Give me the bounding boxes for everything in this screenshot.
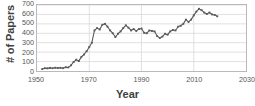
series-line [42,9,217,69]
series-marker [208,12,210,14]
series-marker [54,67,56,69]
series-marker [154,30,156,32]
series-marker [177,26,179,28]
series-marker [138,28,140,30]
plot-svg [37,5,246,71]
x-axis-tick: 2010 [174,75,214,84]
series-marker [190,19,192,21]
series-marker [175,30,177,32]
series-marker [143,32,145,34]
series-marker [41,68,43,70]
series-marker [201,9,203,11]
series-marker [164,33,166,35]
y-axis-tick: 500 [12,19,34,26]
series-marker [101,24,103,26]
x-axis-title: Year [0,88,255,100]
series-marker [44,67,46,69]
series-marker [127,27,129,29]
series-marker [109,30,111,32]
y-axis-tick: 0 [12,68,34,75]
x-axis-tick-labels: 19501970199020102030 [0,75,255,87]
series-marker [151,30,153,32]
series-marker [57,67,59,69]
series-marker [216,15,218,17]
series-marker [96,27,98,29]
x-axis-tick: 1950 [16,75,56,84]
series-marker [117,33,119,35]
series-marker [156,35,158,37]
series-marker [60,67,62,69]
series-marker [67,66,69,68]
y-axis-tick-labels: 0100200300400500600700 [12,0,34,80]
series-marker [86,50,88,52]
series-marker [214,14,216,16]
series-marker [146,32,148,34]
series-marker [167,34,169,36]
series-marker [75,59,77,61]
series-marker [130,30,132,32]
chart-container: # of Papers 0100200300400500600700 19501… [0,0,255,106]
series-marker [104,23,106,25]
x-axis-tick: 2030 [227,75,255,84]
y-axis-tick: 600 [12,10,34,17]
series-marker [133,28,135,30]
y-axis-tick: 300 [12,39,34,46]
series-marker [198,8,200,10]
y-axis-tick: 700 [12,0,34,7]
series-marker [206,13,208,15]
series-marker [122,27,124,29]
plot-area [36,4,247,72]
series-marker [135,30,137,32]
series-marker [94,30,96,32]
x-axis-tick: 1970 [69,75,109,84]
series-marker [73,61,75,63]
series-marker [148,30,150,32]
series-marker [78,60,80,62]
series-marker [88,46,90,48]
x-axis-tick: 1990 [122,75,162,84]
series-marker [211,14,213,16]
series-marker [172,29,174,31]
series-marker [83,54,85,56]
series-marker [65,66,67,68]
series-marker [203,12,205,14]
series-marker [125,24,127,26]
series-marker [112,32,114,34]
series-marker [188,21,190,23]
series-marker [185,19,187,21]
series-marker [159,37,161,39]
series-marker [180,25,182,27]
series-marker [70,64,72,66]
series-marker [47,67,49,69]
y-axis-tick: 400 [12,29,34,36]
series-marker [193,14,195,16]
series-marker [141,28,143,30]
series-marker [107,26,109,28]
series-marker [114,36,116,38]
series-marker [62,67,64,69]
y-axis-tick: 200 [12,49,34,56]
series-marker [49,67,51,69]
series-marker [195,11,197,13]
y-axis-tick: 100 [12,58,34,65]
series-marker [182,23,184,25]
series-marker [99,29,101,31]
series-marker [80,56,82,58]
series-marker [161,36,163,38]
series-marker [120,30,122,32]
series-marker [52,67,54,69]
series-marker [169,30,171,32]
series-marker [91,42,93,44]
